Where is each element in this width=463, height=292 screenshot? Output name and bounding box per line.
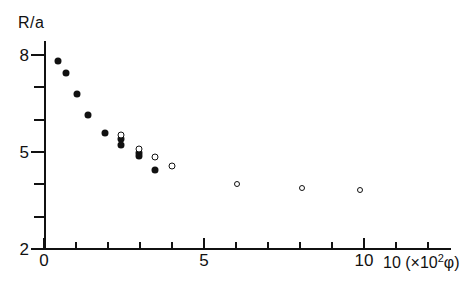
- x-tick-label-5: 5: [199, 252, 208, 269]
- x-tick-10: [363, 238, 365, 249]
- x-tick-0: [43, 238, 45, 249]
- x-tick-4: [171, 242, 173, 249]
- x-tick-9: [331, 242, 333, 249]
- data-point-open-circles-2: [152, 153, 159, 160]
- data-point-filled-circles-6: [118, 141, 125, 148]
- x-tick-11: [395, 242, 397, 249]
- x-tick-5: [203, 238, 205, 249]
- x-tick-1: [75, 242, 77, 249]
- y-tick-7: [34, 86, 44, 88]
- y-tick-label-8: 8: [20, 47, 29, 64]
- x-tick-label-0: 0: [39, 252, 48, 269]
- y-tick-4: [34, 183, 44, 185]
- data-point-open-circles-4: [234, 181, 240, 187]
- x-tick-3: [139, 242, 141, 249]
- x-axis-title-number: 10: [383, 254, 401, 271]
- data-point-filled-circles-9: [152, 166, 159, 173]
- x-tick-7: [267, 242, 269, 249]
- data-point-open-circles-3: [169, 163, 176, 170]
- data-point-filled-circles-2: [73, 91, 80, 98]
- y-axis-title: R/a: [18, 14, 44, 32]
- x-axis-line: [44, 248, 451, 250]
- data-point-filled-circles-3: [85, 112, 92, 119]
- y-tick-6: [34, 119, 44, 121]
- data-point-filled-circles-1: [63, 70, 70, 77]
- x-axis-unit-suffix: φ): [444, 254, 460, 271]
- y-tick-label-5: 5: [20, 144, 29, 161]
- x-tick-6: [235, 242, 237, 249]
- y-tick-label-2: 2: [20, 241, 29, 258]
- data-point-filled-circles-0: [55, 57, 62, 64]
- data-point-open-circles-6: [357, 187, 363, 193]
- y-axis-line: [44, 41, 46, 250]
- x-tick-2: [107, 242, 109, 249]
- x-tick-8: [299, 242, 301, 249]
- y-tick-5: [31, 151, 44, 153]
- data-point-open-circles-5: [299, 185, 305, 191]
- data-point-open-circles-0: [118, 131, 125, 138]
- x-tick-12: [427, 242, 429, 249]
- data-point-filled-circles-8: [136, 152, 143, 159]
- x-tick-label-10: 10: [355, 252, 374, 269]
- y-tick-3: [34, 216, 44, 218]
- data-point-open-circles-1: [136, 145, 143, 152]
- x-axis-title: 10 (×102φ): [383, 252, 460, 272]
- scatter-plot-figure: R/a 258 0510 10 (×102φ): [0, 0, 463, 292]
- x-axis-unit-prefix: (×10: [405, 254, 437, 271]
- data-point-filled-circles-4: [102, 130, 109, 137]
- y-tick-8: [31, 54, 44, 56]
